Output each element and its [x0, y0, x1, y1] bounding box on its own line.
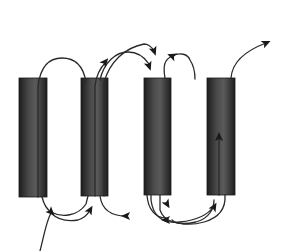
helices-group: [19, 78, 235, 197]
loop-4-top-exit-line: [231, 43, 266, 78]
loop-2-3-top-short-line: [100, 52, 149, 80]
loop-3-top-line: [164, 54, 195, 79]
arrow-loop-1-bottom-icon: [85, 204, 96, 216]
arrow-2-3-bottom-icon: [121, 212, 130, 220]
loop-2-3-bottom-line: [100, 196, 126, 216]
loop-3-4-bottom-line: [147, 195, 166, 218]
helix-3-cylinder: [144, 78, 171, 195]
arrow-helix-3-top-short-icon: [144, 61, 155, 72]
helix-1-cylinder: [19, 78, 47, 197]
arrow-loop-3-bottom-icon: [162, 199, 173, 211]
arrow-helix-3-top-long-icon: [149, 46, 160, 57]
helix-topology-diagram: [0, 0, 294, 251]
n-terminus-entry-line: [40, 213, 51, 251]
loop-1-bottom-arrow-line: [51, 210, 90, 221]
loop-4-bottom-line: [172, 195, 225, 224]
arrow-exit-icon: [261, 37, 273, 48]
